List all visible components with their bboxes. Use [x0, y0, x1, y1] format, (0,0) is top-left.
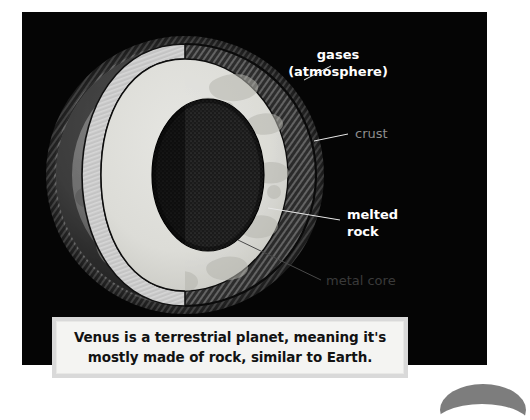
caption-line-1: Venus is a terrestrial planet, meaning i…	[74, 329, 386, 345]
caption-inner: Venus is a terrestrial planet, meaning i…	[56, 321, 404, 374]
label-crust: crust	[355, 126, 388, 141]
caption-line-2: mostly made of rock, similar to Earth.	[88, 349, 373, 365]
label-atmosphere-line1: gases	[317, 47, 360, 62]
label-metal-core: metal core	[326, 273, 396, 288]
label-melted-rock-line2: rock	[347, 224, 379, 239]
illustration-panel: gases (atmosphere) crust melted rock met…	[22, 12, 487, 365]
caption-box: Venus is a terrestrial planet, meaning i…	[52, 317, 408, 378]
label-melted-rock-line1: melted	[347, 207, 398, 222]
caption-text: Venus is a terrestrial planet, meaning i…	[64, 328, 396, 367]
label-atmosphere-line2: (atmosphere)	[288, 64, 388, 79]
venus-cutaway-diagram: gases (atmosphere) crust melted rock met…	[22, 12, 487, 365]
